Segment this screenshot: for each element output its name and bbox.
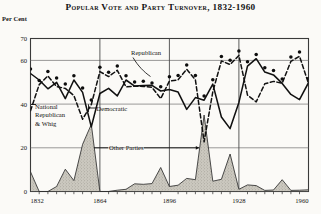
annotation-other-parties: Other Parties xyxy=(94,144,199,151)
xtick-1896: 1896 xyxy=(163,197,177,204)
annotation-natrep-line3: & Whig xyxy=(35,120,57,127)
ytick-40: 40 xyxy=(20,101,27,108)
annotation-national-republican-whig: National Republican & Whig xyxy=(31,103,66,127)
annotation-natrep-line2: Republican xyxy=(35,111,66,118)
annotation-democratic-label: Democratic xyxy=(97,105,128,112)
xtick-1928: 1928 xyxy=(232,197,246,204)
annotation-natrep-line1: National xyxy=(35,103,58,110)
x-axis-ticks: 1832 1864 1896 1928 1960 xyxy=(31,197,310,204)
annotation-republican-label: Republican xyxy=(131,49,162,56)
xtick-1832: 1832 xyxy=(31,197,44,204)
annotation-republican: Republican xyxy=(131,49,162,77)
ytick-60: 60 xyxy=(20,57,27,64)
vertical-gridlines xyxy=(100,39,239,192)
y-axis-ticks: 70 60 40 20 0 xyxy=(20,35,27,195)
annotation-democratic: Democratic xyxy=(89,104,128,112)
ytick-70: 70 xyxy=(20,35,27,42)
ytick-0: 0 xyxy=(24,188,28,195)
xtick-1864: 1864 xyxy=(93,197,107,204)
annotation-other-parties-label: Other Parties xyxy=(109,144,144,151)
chart-figure: Popular Vote and Party Turnover, 1832-19… xyxy=(0,0,321,214)
xtick-1960: 1960 xyxy=(295,197,309,204)
ytick-20: 20 xyxy=(20,144,27,151)
chart-plot-area: 70 60 40 20 0 xyxy=(0,0,321,214)
